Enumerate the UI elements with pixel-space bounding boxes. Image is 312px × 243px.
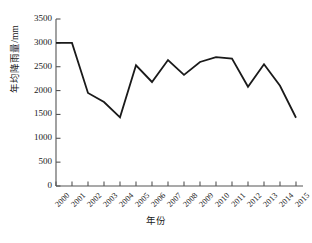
y-tick-label: 3000	[34, 37, 52, 47]
y-tick-label: 3500	[34, 13, 52, 23]
y-tick-label: 0	[48, 180, 53, 190]
x-axis-title: 年份	[0, 213, 312, 227]
y-tick-label: 2000	[34, 85, 52, 95]
y-tick-label: 2500	[34, 61, 52, 71]
y-tick-label: 1000	[34, 132, 52, 142]
y-tick-label: 500	[39, 156, 53, 166]
x-axis-ticks	[56, 182, 296, 187]
y-tick-label: 1500	[34, 108, 52, 118]
y-axis-ticks	[56, 19, 61, 186]
rainfall-line-chart: 年均降雨量/mm 0500100015002000250030003500 20…	[0, 0, 312, 243]
data-series-line	[56, 43, 296, 118]
